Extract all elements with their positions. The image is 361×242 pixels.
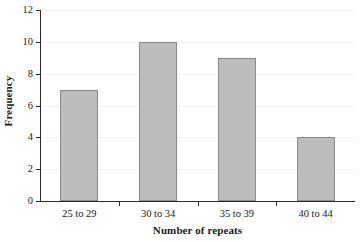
bar — [218, 58, 256, 201]
bar — [297, 137, 335, 201]
y-axis-title-label: Frequency — [2, 76, 14, 127]
bar — [60, 90, 98, 201]
x-tick-label: 30 to 34 — [141, 206, 175, 222]
y-tick-label: 0 — [28, 196, 33, 207]
y-tick-label: 12 — [23, 5, 34, 16]
y-tick-label: 10 — [23, 37, 34, 48]
x-axis-title: Number of repeats — [40, 224, 355, 236]
x-tick-label: 25 to 29 — [62, 206, 96, 222]
bar-chart-figure: Frequency 024681012 25 to 2930 to 3435 t… — [0, 0, 361, 242]
y-tick-label: 6 — [28, 100, 33, 111]
x-axis-tick-labels: 25 to 2930 to 3435 to 3940 to 44 — [40, 206, 355, 222]
plot-area: 024681012 — [40, 10, 355, 202]
x-tick-label: 40 to 44 — [298, 206, 332, 222]
y-tick-label: 2 — [28, 164, 33, 175]
y-tick-label: 8 — [28, 68, 33, 79]
x-tick-label: 35 to 39 — [220, 206, 254, 222]
bar-series — [40, 10, 355, 202]
y-tick-label: 4 — [28, 132, 33, 143]
y-axis-title: Frequency — [0, 0, 16, 202]
bar — [139, 42, 177, 201]
